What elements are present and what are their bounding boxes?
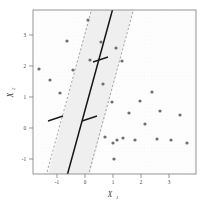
data-point: [110, 100, 113, 103]
x-tick-label: -1: [55, 179, 60, 185]
data-point: [65, 39, 68, 42]
y-tick-label: 1: [23, 94, 26, 100]
x-tick-label: 0: [84, 179, 87, 185]
data-point: [58, 91, 61, 94]
data-point: [150, 90, 153, 93]
data-point: [48, 78, 51, 81]
data-point: [155, 137, 158, 140]
y-axis-title: X 2: [7, 87, 16, 98]
data-point: [103, 135, 106, 138]
y-tick-label: 3: [23, 32, 26, 38]
plot-svg: -1 0 1 2 3 3 2 1 0 -1 X 1 X 2: [0, 0, 211, 207]
data-point: [138, 99, 141, 102]
x-tick-label: 1: [112, 179, 115, 185]
y-axis-ticks: [29, 35, 33, 159]
x-tick-label: 2: [140, 179, 143, 185]
data-point: [114, 46, 117, 49]
data-point: [71, 68, 74, 71]
data-point: [143, 122, 146, 125]
data-point: [115, 138, 118, 141]
data-point: [101, 82, 104, 85]
y-tick-label: 2: [23, 63, 26, 69]
x-tick-label: 3: [168, 179, 171, 185]
data-point: [112, 157, 115, 160]
y-axis-tick-labels: 3 2 1 0 -1: [22, 32, 27, 162]
data-point: [120, 59, 123, 62]
y-tick-label: 0: [23, 125, 26, 131]
data-point: [185, 141, 188, 144]
y-tick-label: -1: [22, 156, 27, 162]
data-point: [178, 113, 181, 116]
data-point: [111, 141, 114, 144]
data-point: [169, 138, 172, 141]
data-point: [158, 109, 161, 112]
data-point: [133, 138, 136, 141]
data-point: [121, 136, 124, 139]
data-point: [99, 40, 102, 43]
x-axis-title: X 1: [107, 191, 118, 200]
data-point: [37, 67, 40, 70]
data-point: [127, 111, 130, 114]
data-point: [86, 18, 89, 21]
x-axis-ticks: [57, 174, 169, 178]
x-axis-title-main: X: [107, 191, 113, 199]
x-axis-tick-labels: -1 0 1 2 3: [55, 179, 171, 185]
data-point: [88, 58, 91, 61]
svm-maximal-margin-figure: -1 0 1 2 3 3 2 1 0 -1 X 1 X 2: [0, 0, 211, 207]
y-axis-title-main: X: [7, 92, 15, 98]
y-axis-title-sub: 2: [11, 87, 16, 90]
x-axis-title-sub: 1: [116, 195, 118, 200]
